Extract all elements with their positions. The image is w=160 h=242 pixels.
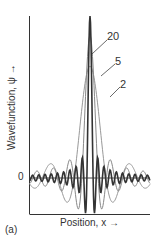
panel-label: (a) [5,225,17,235]
y-axis-label: Wavefunction, ψ → [6,64,17,150]
x-axis-label: Position, x → [60,218,119,228]
y-tick-zero: 0 [18,172,24,182]
axes [30,16,151,215]
series-label-2: 2 [120,79,126,90]
curve-n-5 [30,35,151,209]
curves [30,16,151,213]
leader-5 [101,64,115,76]
wavefunction-chart [0,0,160,242]
series-label-20: 20 [107,31,119,42]
leader-20 [92,40,107,54]
series-label-5: 5 [115,56,121,67]
leader-2 [110,87,120,97]
